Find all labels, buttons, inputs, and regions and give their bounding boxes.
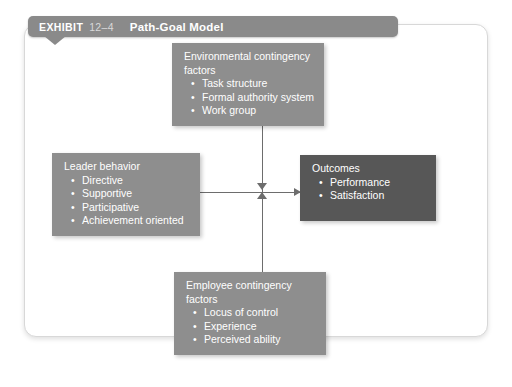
node-title: Leader behavior: [64, 160, 190, 174]
node-environmental-contingency-factors: Environmental contingency factors Task s…: [172, 43, 324, 126]
node-leader-behavior: Leader behavior Directive Supportive Par…: [52, 153, 200, 236]
exhibit-header-bar: EXHIBIT 12–4 Path-Goal Model: [28, 16, 398, 37]
list-item: Directive: [64, 174, 190, 188]
list-item: Supportive: [64, 187, 190, 201]
node-title: Environmental contingency factors: [184, 50, 314, 77]
list-item: Formal authority system: [184, 91, 314, 105]
node-outcomes: Outcomes Performance Satisfaction: [300, 155, 436, 221]
connector-vertical-contingency: [262, 110, 263, 272]
list-item: Experience: [186, 320, 316, 334]
list-item: Satisfaction: [312, 189, 426, 203]
node-employee-contingency-factors: Employee contingency factors Locus of co…: [174, 272, 326, 355]
exhibit-label: EXHIBIT: [39, 21, 83, 33]
list-item: Locus of control: [186, 306, 316, 320]
node-item-list: Task structure Formal authority system W…: [184, 77, 314, 118]
header-notch-triangle: [44, 36, 66, 45]
node-item-list: Locus of control Experience Perceived ab…: [186, 306, 316, 347]
list-item: Perceived ability: [186, 333, 316, 347]
arrowhead-down-icon: [257, 183, 267, 190]
arrowhead-up-icon: [257, 192, 267, 199]
exhibit-title: Path-Goal Model: [130, 21, 224, 33]
node-item-list: Directive Supportive Participative Achie…: [64, 174, 190, 228]
connector-leader-to-outcomes: [200, 192, 300, 193]
node-item-list: Performance Satisfaction: [312, 176, 426, 203]
node-title: Employee contingency factors: [186, 279, 316, 306]
node-title: Outcomes: [312, 162, 426, 176]
list-item: Performance: [312, 176, 426, 190]
list-item: Achievement oriented: [64, 214, 190, 228]
list-item: Work group: [184, 104, 314, 118]
list-item: Participative: [64, 201, 190, 215]
exhibit-number: 12–4: [89, 21, 114, 33]
list-item: Task structure: [184, 77, 314, 91]
